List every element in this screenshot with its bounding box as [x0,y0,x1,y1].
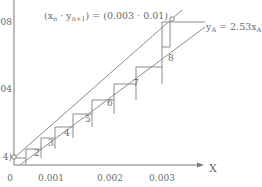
step-label: 5 [85,114,91,124]
step-label: 6 [107,98,113,108]
y-tick-label: 4) [3,152,12,162]
x-tick-label: 0.002 [97,173,123,183]
y-tick-label: 008 [0,17,12,27]
staircase [14,22,170,165]
operating-line [14,10,182,158]
line-equation-label: yA = 2.53xA [205,21,262,34]
x-tick-label: 0.003 [149,173,175,183]
y-tick-label: 004 [0,84,12,94]
x-tick-label: 0.001 [38,173,64,183]
x-axis-label: X [209,162,217,175]
end-point-icon [170,17,174,21]
step-label: 3 [48,138,54,148]
step-label: 2 [34,148,40,158]
start-point-icon [12,155,16,159]
x-tick-label: 0 [7,173,13,183]
step-label: 8 [168,53,174,63]
x-axis-arrow-icon [197,163,204,168]
endpoint-label: (xn · yn+1) = (0.003 · 0.01) [44,10,168,23]
step-label: 7 [133,78,139,88]
step-label: 4 [64,128,70,138]
mccabe-thiele-diagram: 2 3 4 5 6 7 8 (xn · yn+1) = (0.003 · 0.0… [0,0,262,187]
